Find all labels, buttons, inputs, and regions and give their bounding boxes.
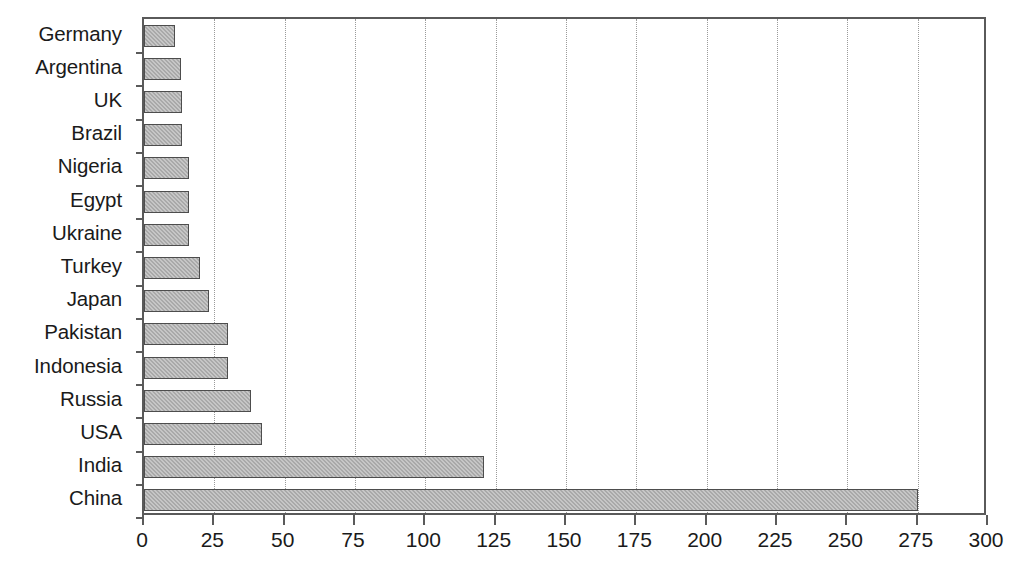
bar — [144, 191, 189, 213]
x-axis-tick — [353, 515, 355, 525]
y-axis-tick — [136, 52, 144, 54]
y-axis-label-russia: Russia — [60, 389, 122, 410]
y-axis-category-labels: GermanyArgentinaUKBrazilNigeriaEgyptUkra… — [0, 17, 132, 515]
y-axis-tick — [136, 185, 144, 187]
y-axis-label-nigeria: Nigeria — [58, 156, 122, 177]
x-axis-tick — [845, 515, 847, 525]
x-axis-tick — [212, 515, 214, 525]
x-axis-tick — [494, 515, 496, 525]
y-axis-tick — [136, 417, 144, 419]
y-axis-label-indonesia: Indonesia — [34, 356, 122, 377]
bar — [144, 91, 182, 113]
x-axis-tick — [564, 515, 566, 525]
y-axis-tick — [136, 152, 144, 154]
x-axis-label-250: 250 — [828, 529, 863, 550]
y-axis-tick — [136, 318, 144, 320]
x-axis-label-200: 200 — [687, 529, 722, 550]
x-axis-tick — [142, 515, 144, 525]
y-axis-label-turkey: Turkey — [61, 256, 122, 277]
y-axis-tick — [136, 384, 144, 386]
x-axis-tick — [634, 515, 636, 525]
x-axis-label-300: 300 — [968, 529, 1003, 550]
bar — [144, 357, 228, 379]
y-axis-tick — [136, 484, 144, 486]
bar — [144, 423, 262, 445]
x-axis-tick — [705, 515, 707, 525]
y-axis-label-brazil: Brazil — [71, 123, 122, 144]
y-axis-label-pakistan: Pakistan — [44, 322, 122, 343]
y-axis-tick — [136, 218, 144, 220]
bars-layer — [144, 19, 984, 513]
x-axis-tick — [283, 515, 285, 525]
bar — [144, 58, 181, 80]
y-axis-label-ukraine: Ukraine — [52, 223, 122, 244]
x-axis-label-275: 275 — [898, 529, 933, 550]
x-axis-label-175: 175 — [617, 529, 652, 550]
y-axis-label-argentina: Argentina — [35, 57, 122, 78]
x-axis-ticks — [142, 515, 986, 527]
x-axis-label-150: 150 — [546, 529, 581, 550]
x-axis-tick — [986, 515, 988, 525]
bar — [144, 124, 182, 146]
y-axis-tick — [136, 351, 144, 353]
x-axis-label-125: 125 — [476, 529, 511, 550]
bar — [144, 224, 189, 246]
x-axis-label-50: 50 — [271, 529, 294, 550]
y-axis-label-germany: Germany — [38, 24, 122, 45]
x-axis-label-225: 225 — [757, 529, 792, 550]
x-axis-tick — [775, 515, 777, 525]
bar — [144, 25, 175, 47]
y-axis-label-uk: UK — [94, 90, 122, 111]
y-axis-label-usa: USA — [80, 422, 122, 443]
y-axis-tick — [136, 285, 144, 287]
y-axis-tick — [136, 119, 144, 121]
x-axis-tick-labels: 0255075100125150175200225250275300 — [0, 529, 1026, 569]
bar — [144, 390, 251, 412]
bar — [144, 489, 918, 511]
x-axis-tick — [916, 515, 918, 525]
y-axis-tick — [136, 85, 144, 87]
y-axis-tick — [136, 451, 144, 453]
bar — [144, 257, 200, 279]
bar — [144, 157, 189, 179]
bar — [144, 456, 484, 478]
y-axis-label-japan: Japan — [67, 289, 122, 310]
x-axis-label-25: 25 — [201, 529, 224, 550]
plot-area — [142, 17, 986, 515]
y-axis-label-india: India — [78, 455, 122, 476]
bar — [144, 323, 228, 345]
x-axis-label-0: 0 — [136, 529, 148, 550]
y-axis-tick — [136, 251, 144, 253]
x-axis-label-75: 75 — [341, 529, 364, 550]
x-axis-label-100: 100 — [406, 529, 441, 550]
y-axis-label-egypt: Egypt — [70, 190, 122, 211]
x-axis-tick — [423, 515, 425, 525]
y-axis-label-china: China — [69, 488, 122, 509]
horizontal-bar-chart: GermanyArgentinaUKBrazilNigeriaEgyptUkra… — [0, 0, 1026, 580]
bar — [144, 290, 209, 312]
